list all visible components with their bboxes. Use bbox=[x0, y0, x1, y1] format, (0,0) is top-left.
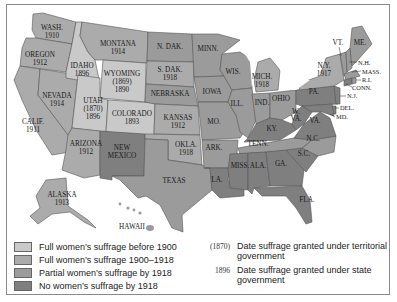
svg-text:KY.: KY. bbox=[266, 125, 277, 133]
svg-text:IOWA: IOWA bbox=[203, 88, 223, 96]
svg-text:1912: 1912 bbox=[79, 148, 94, 156]
key-text: Date suffrage granted under territorial … bbox=[237, 241, 387, 261]
svg-text:NEW: NEW bbox=[114, 144, 131, 152]
svg-text:S. DAK.: S. DAK. bbox=[158, 66, 183, 74]
svg-text:ME.: ME. bbox=[354, 39, 367, 47]
legend-item-full-1900-1918: Full women’s suffrage 1900–1918 bbox=[14, 253, 177, 266]
svg-text:NEBRASKA: NEBRASKA bbox=[151, 90, 191, 98]
legend-label: Full women’s suffrage 1900–1918 bbox=[39, 255, 174, 265]
svg-text:1914: 1914 bbox=[50, 100, 65, 108]
svg-text:DEL.: DEL. bbox=[340, 104, 354, 111]
key-sample: (1870) bbox=[202, 241, 230, 251]
swatch-none-by-1918 bbox=[14, 281, 32, 291]
svg-text:(1869): (1869) bbox=[112, 78, 132, 86]
svg-text:1911: 1911 bbox=[26, 126, 41, 134]
svg-text:1918: 1918 bbox=[179, 149, 194, 157]
svg-text:MONTANA: MONTANA bbox=[100, 40, 137, 48]
svg-text:PA.: PA. bbox=[309, 88, 320, 96]
svg-text:TEXAS: TEXAS bbox=[162, 177, 185, 185]
svg-text:TENN.: TENN. bbox=[248, 140, 269, 148]
svg-text:UTAH: UTAH bbox=[83, 97, 102, 105]
legend-label: No women’s suffrage by 1918 bbox=[39, 281, 158, 291]
svg-text:1918: 1918 bbox=[255, 81, 270, 89]
svg-text:ARK.: ARK. bbox=[206, 144, 223, 152]
swatch-partial-by-1918 bbox=[14, 268, 32, 278]
svg-text:MEXICO: MEXICO bbox=[108, 152, 136, 160]
svg-text:ARIZONA: ARIZONA bbox=[70, 140, 103, 148]
svg-text:(1870): (1870) bbox=[83, 105, 103, 113]
svg-text:OKLA.: OKLA. bbox=[175, 141, 197, 149]
svg-text:LA.: LA. bbox=[211, 176, 223, 184]
legend-label: Partial women’s suffrage by 1918 bbox=[39, 268, 172, 278]
svg-text:1918: 1918 bbox=[163, 74, 178, 82]
svg-text:N. DAK.: N. DAK. bbox=[157, 43, 183, 51]
svg-text:MASS.: MASS. bbox=[362, 68, 381, 75]
svg-text:N.J.: N.J. bbox=[347, 92, 358, 99]
date-key-legend: (1870) Date suffrage granted under terri… bbox=[202, 241, 387, 289]
legend-item-none-by-1918: No women’s suffrage by 1918 bbox=[14, 279, 177, 292]
svg-text:VA.: VA. bbox=[309, 117, 320, 125]
svg-text:N.C.: N.C. bbox=[306, 135, 320, 143]
svg-text:CONN.: CONN. bbox=[352, 84, 372, 91]
legend-item-full-before-1900: Full women’s suffrage before 1900 bbox=[14, 240, 177, 253]
svg-text:OHIO: OHIO bbox=[272, 95, 290, 103]
svg-text:HAWAII: HAWAII bbox=[119, 223, 145, 231]
color-legend: Full women’s suffrage before 1900 Full w… bbox=[14, 240, 177, 292]
svg-text:ILL.: ILL. bbox=[231, 100, 244, 108]
svg-text:GA.: GA. bbox=[275, 160, 287, 168]
svg-text:VA.: VA. bbox=[290, 115, 301, 123]
svg-text:VT.: VT. bbox=[333, 39, 344, 47]
svg-text:1910: 1910 bbox=[45, 32, 60, 40]
svg-text:COLORADO: COLORADO bbox=[112, 110, 152, 118]
svg-text:WYOMING: WYOMING bbox=[104, 70, 140, 78]
svg-text:NEVADA: NEVADA bbox=[42, 92, 72, 100]
svg-text:1913: 1913 bbox=[55, 199, 70, 207]
state-fla bbox=[254, 186, 312, 224]
svg-text:MO.: MO. bbox=[207, 118, 221, 126]
svg-text:MICH.: MICH. bbox=[252, 73, 273, 81]
key-sample: 1896 bbox=[202, 265, 230, 275]
swatch-full-1900-1918 bbox=[14, 255, 32, 265]
svg-text:1896: 1896 bbox=[75, 70, 90, 78]
svg-text:R.I.: R.I. bbox=[362, 76, 372, 83]
state-miss bbox=[228, 153, 248, 190]
svg-text:WASH.: WASH. bbox=[41, 24, 63, 32]
legend-label: Full women’s suffrage before 1900 bbox=[39, 242, 177, 252]
svg-text:FLA.: FLA. bbox=[299, 196, 315, 204]
svg-text:WIS.: WIS. bbox=[226, 68, 241, 76]
svg-text:IND.: IND. bbox=[255, 99, 270, 107]
svg-text:ALASKA: ALASKA bbox=[47, 191, 77, 199]
svg-text:S.C.: S.C. bbox=[298, 150, 311, 158]
svg-text:1893: 1893 bbox=[125, 118, 140, 126]
svg-text:KANSAS: KANSAS bbox=[164, 114, 193, 122]
svg-text:IDAHO: IDAHO bbox=[70, 62, 93, 70]
svg-text:1896: 1896 bbox=[86, 113, 101, 121]
svg-text:1890: 1890 bbox=[115, 86, 130, 94]
svg-text:MISS.: MISS. bbox=[231, 162, 250, 170]
svg-text:1914: 1914 bbox=[111, 48, 126, 56]
svg-text:N.Y.: N.Y. bbox=[317, 62, 330, 70]
svg-text:ALA.: ALA. bbox=[250, 162, 267, 170]
key-text: Date suffrage granted under state govern… bbox=[237, 265, 387, 285]
svg-text:1912: 1912 bbox=[171, 122, 186, 130]
svg-text:1917: 1917 bbox=[317, 70, 332, 78]
svg-text:1912: 1912 bbox=[33, 59, 48, 67]
svg-text:CALIF.: CALIF. bbox=[22, 118, 44, 126]
svg-text:OREGON: OREGON bbox=[25, 51, 56, 59]
svg-text:MINN.: MINN. bbox=[198, 45, 219, 53]
key-territorial: (1870) Date suffrage granted under terri… bbox=[202, 241, 387, 261]
key-state: 1896 Date suffrage granted under state g… bbox=[202, 265, 387, 285]
svg-text:N.H.: N.H. bbox=[358, 59, 371, 66]
legend-item-partial-by-1918: Partial women’s suffrage by 1918 bbox=[14, 266, 177, 279]
svg-text:MD.: MD. bbox=[336, 113, 348, 120]
swatch-full-before-1900 bbox=[14, 242, 32, 252]
